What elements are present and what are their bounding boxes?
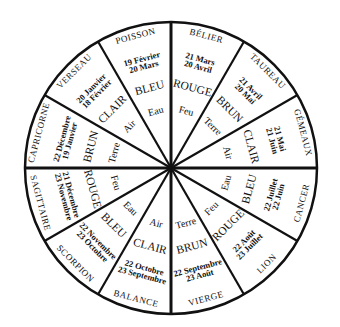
zodiac-wheel: BÉLIER21 Mars20 AvrilROUGEFeuTAUREAU21 A… bbox=[0, 0, 340, 327]
